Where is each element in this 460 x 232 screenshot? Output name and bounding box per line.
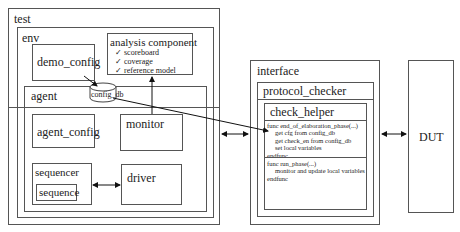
sequencer-label: sequencer [35, 167, 79, 178]
check-helper-label: check_helper [270, 106, 334, 118]
agent-config-label: agent_config [37, 126, 100, 138]
protocol-checker-label: protocol_checker [263, 85, 346, 97]
config-db-label: config_db [91, 91, 123, 99]
analysis-item-scoreboard: ✓ scoreboard [115, 49, 159, 57]
dut-label: DUT [419, 131, 444, 143]
protocol-checker-divider [257, 99, 374, 100]
test-label: test [14, 13, 31, 25]
demo-config-label: demo_config [37, 56, 100, 68]
agent-label: agent [31, 90, 57, 102]
func-run-phase: func run_phase(...) monitor and update l… [267, 160, 365, 182]
sequence-label: sequence [39, 187, 79, 198]
func-end-of-elaboration: func end_of_elaboration_phase(...) get c… [267, 122, 358, 159]
analysis-item-coverage: ✓ coverage [115, 58, 153, 66]
func-divider [264, 157, 367, 158]
check-icon: ✓ [115, 48, 122, 57]
check-icon: ✓ [115, 57, 122, 66]
check-icon: ✓ [115, 66, 122, 75]
interface-label: interface [257, 65, 299, 77]
check-helper-divider [264, 120, 367, 121]
env-label: env [22, 32, 39, 44]
analysis-component-title: analysis component [110, 37, 197, 48]
monitor-label: monitor [126, 118, 164, 130]
analysis-item-reference-model: ✓ reference model [115, 67, 176, 75]
driver-label: driver [127, 172, 156, 184]
